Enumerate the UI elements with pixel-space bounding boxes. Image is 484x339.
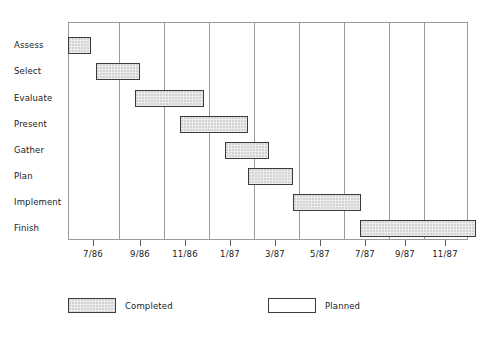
x-axis: 7/869/8611/861/873/875/877/879/8711/87	[68, 240, 468, 270]
legend-item-planned: Planned	[268, 298, 360, 313]
x-tick-label-7-87: 7/87	[355, 249, 375, 259]
x-tick-4	[275, 240, 276, 246]
x-tick-label-11-86: 11/86	[172, 249, 198, 259]
x-tick-label-1-87: 1/87	[220, 249, 240, 259]
task-label-present: Present	[14, 119, 47, 129]
x-tick-2	[185, 240, 186, 246]
task-label-assess: Assess	[14, 40, 44, 50]
legend-label-planned: Planned	[325, 301, 360, 311]
x-tick-6	[365, 240, 366, 246]
task-label-implement: Implement	[14, 197, 61, 207]
task-label-evaluate: Evaluate	[14, 93, 52, 103]
task-label-select: Select	[14, 66, 41, 76]
x-tick-5	[320, 240, 321, 246]
x-tick-8	[445, 240, 446, 246]
task-label-column: AssessSelectEvaluatePresentGatherPlanImp…	[0, 22, 62, 240]
legend-swatch-completed	[68, 298, 116, 313]
gridline-7	[389, 23, 390, 239]
gridline-3	[209, 23, 210, 239]
x-tick-label-9-87: 9/87	[395, 249, 415, 259]
x-tick-3	[230, 240, 231, 246]
x-tick-label-9-86: 9/86	[130, 249, 150, 259]
gridline-4	[254, 23, 255, 239]
legend-swatch-planned	[268, 298, 316, 313]
task-label-plan: Plan	[14, 171, 33, 181]
gridline-1	[119, 23, 120, 239]
gridline-2	[164, 23, 165, 239]
plot-area	[68, 22, 468, 240]
task-label-finish: Finish	[14, 223, 39, 233]
gridline-6	[344, 23, 345, 239]
gantt-chart-figure: AssessSelectEvaluatePresentGatherPlanImp…	[0, 0, 484, 339]
task-label-gather: Gather	[14, 145, 44, 155]
x-tick-label-11-87: 11/87	[432, 249, 458, 259]
gridline-8	[424, 23, 425, 239]
x-tick-label-5-87: 5/87	[310, 249, 330, 259]
x-tick-0	[93, 240, 94, 246]
legend-label-completed: Completed	[125, 301, 173, 311]
x-tick-7	[405, 240, 406, 246]
gridline-5	[299, 23, 300, 239]
x-tick-label-7-86: 7/86	[83, 249, 103, 259]
x-tick-1	[140, 240, 141, 246]
legend-item-completed: Completed	[68, 298, 173, 313]
x-tick-label-3-87: 3/87	[265, 249, 285, 259]
chart-legend: CompletedPlanned	[68, 298, 468, 320]
